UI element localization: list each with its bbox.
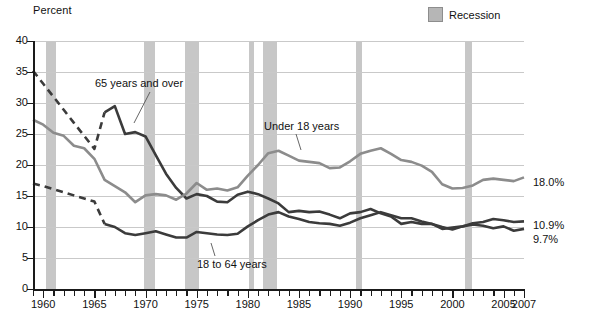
x-tick-mark-minor	[268, 291, 269, 296]
x-tick-label: 1965	[82, 298, 106, 310]
y-tick-label: 0	[2, 282, 28, 294]
series-line	[33, 184, 105, 224]
x-tick-mark-minor	[340, 291, 341, 296]
x-tick-mark-minor	[84, 291, 85, 296]
x-tick-mark-minor	[493, 291, 494, 296]
y-tick-mark	[27, 196, 33, 197]
x-tick-mark-major	[197, 291, 198, 298]
x-tick-label: 1985	[287, 298, 311, 310]
series-label: 18 to 64 years	[197, 258, 267, 270]
end-value-label: 18.0%	[533, 176, 564, 188]
x-tick-label: 1995	[389, 298, 413, 310]
x-tick-mark-minor	[483, 291, 484, 296]
x-tick-mark-minor	[422, 291, 423, 296]
x-tick-mark-minor	[115, 291, 116, 296]
x-tick-mark-minor	[319, 291, 320, 296]
y-tick-label: 15	[2, 189, 28, 201]
x-tick-mark-minor	[156, 291, 157, 296]
series-label: 65 years and over	[95, 77, 183, 89]
x-tick-mark-minor	[309, 291, 310, 296]
y-tick-mark	[27, 134, 33, 135]
x-tick-mark-minor	[442, 291, 443, 296]
y-tick-mark	[27, 165, 33, 166]
x-tick-label: 1980	[236, 298, 260, 310]
y-axis-title: Percent	[33, 4, 72, 16]
x-tick-mark-major	[248, 291, 249, 298]
x-tick-mark-minor	[258, 291, 259, 296]
x-tick-mark-minor	[238, 291, 239, 296]
series-line	[105, 212, 524, 237]
y-tick-label: 10	[2, 220, 28, 232]
x-tick-mark-major	[504, 291, 505, 298]
y-axis-line	[33, 41, 35, 290]
x-tick-mark-major	[452, 291, 453, 298]
x-tick-label: 2000	[440, 298, 464, 310]
x-tick-mark-minor	[360, 291, 361, 296]
x-tick-mark-minor	[186, 291, 187, 296]
x-tick-label: 1990	[338, 298, 362, 310]
y-tick-label: 40	[2, 34, 28, 46]
x-tick-mark-minor	[33, 291, 34, 296]
y-tick-label: 25	[2, 127, 28, 139]
x-tick-mark-minor	[176, 291, 177, 296]
x-tick-mark-major	[146, 291, 147, 298]
x-tick-mark-major	[43, 291, 44, 298]
x-tick-mark-minor	[381, 291, 382, 296]
y-tick-mark	[27, 41, 33, 42]
x-tick-mark-minor	[166, 291, 167, 296]
series-line	[33, 120, 524, 202]
y-tick-label: 5	[2, 251, 28, 263]
series-label: Under 18 years	[264, 120, 339, 132]
recession-swatch-icon	[428, 7, 443, 22]
x-tick-mark-minor	[514, 291, 515, 296]
x-tick-mark-major	[524, 291, 525, 298]
x-tick-mark-minor	[53, 291, 54, 296]
x-tick-mark-minor	[74, 291, 75, 296]
end-value-label: 10.9%	[533, 219, 564, 231]
y-tick-mark	[27, 258, 33, 259]
x-tick-label: 1975	[184, 298, 208, 310]
y-tick-mark	[27, 227, 33, 228]
end-value-label: 9.7%	[533, 233, 558, 245]
x-tick-label: 2007	[512, 298, 536, 310]
x-tick-mark-minor	[432, 291, 433, 296]
x-tick-mark-minor	[411, 291, 412, 296]
y-tick-mark	[27, 103, 33, 104]
x-tick-mark-minor	[289, 291, 290, 296]
x-tick-mark-minor	[463, 291, 464, 296]
x-tick-mark-major	[299, 291, 300, 298]
x-tick-mark-minor	[105, 291, 106, 296]
y-tick-label: 30	[2, 96, 28, 108]
legend-label-recession: Recession	[449, 9, 500, 21]
poverty-rate-line-chart: Percent Recession 0510152025303540 19601…	[0, 0, 613, 323]
y-tick-label: 35	[2, 65, 28, 77]
x-tick-mark-minor	[330, 291, 331, 296]
y-tick-label: 20	[2, 158, 28, 170]
series-line	[33, 71, 105, 149]
x-tick-mark-minor	[473, 291, 474, 296]
y-tick-mark	[27, 72, 33, 73]
x-tick-mark-major	[350, 291, 351, 298]
x-tick-mark-minor	[217, 291, 218, 296]
legend: Recession	[428, 7, 500, 22]
x-tick-label: 1970	[133, 298, 157, 310]
x-tick-mark-minor	[207, 291, 208, 296]
x-tick-mark-minor	[125, 291, 126, 296]
x-tick-mark-minor	[371, 291, 372, 296]
x-tick-mark-minor	[64, 291, 65, 296]
x-tick-mark-minor	[279, 291, 280, 296]
x-tick-mark-minor	[391, 291, 392, 296]
x-tick-label: 1960	[31, 298, 55, 310]
x-tick-mark-major	[401, 291, 402, 298]
x-tick-mark-minor	[135, 291, 136, 296]
x-tick-mark-minor	[227, 291, 228, 296]
x-tick-mark-major	[94, 291, 95, 298]
